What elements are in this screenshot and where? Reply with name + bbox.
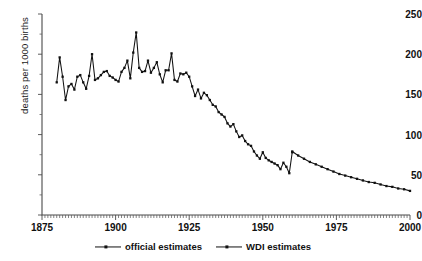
data-point-marker: [56, 81, 58, 83]
data-point-marker: [209, 99, 211, 101]
data-point-marker: [132, 51, 134, 53]
data-point-marker: [197, 88, 199, 90]
data-point-marker: [120, 71, 122, 73]
data-point-marker: [82, 81, 84, 83]
data-point-marker: [203, 92, 205, 94]
data-point-marker: [391, 186, 393, 188]
data-point-marker: [59, 56, 61, 58]
data-point-marker: [397, 187, 399, 189]
data-point-marker: [76, 76, 78, 78]
data-point-marker: [188, 76, 190, 78]
data-point-marker: [226, 122, 228, 124]
data-point-marker: [368, 181, 370, 183]
data-point-marker: [344, 174, 346, 176]
data-point-marker: [409, 190, 411, 192]
data-point-marker: [79, 74, 81, 76]
legend-entry-wdi: WDI estimates: [216, 241, 311, 252]
data-point-marker: [379, 183, 381, 185]
data-point-marker: [220, 113, 222, 115]
data-point-marker: [88, 75, 90, 77]
data-point-marker: [91, 53, 93, 55]
data-point-marker: [94, 79, 96, 81]
data-point-marker: [270, 161, 272, 163]
data-point-marker: [141, 71, 143, 73]
data-point-marker: [241, 134, 243, 136]
data-point-marker: [244, 140, 246, 142]
data-point-marker: [235, 130, 237, 132]
data-point-marker: [191, 85, 193, 87]
series-line-wdi: [292, 151, 410, 190]
data-point-marker: [179, 72, 181, 74]
data-point-marker: [356, 178, 358, 180]
data-point-marker: [279, 168, 281, 170]
data-point-marker: [150, 72, 152, 74]
data-point-marker: [285, 166, 287, 168]
data-point-marker: [123, 67, 125, 69]
data-point-marker: [282, 162, 284, 164]
data-point-marker: [291, 150, 293, 152]
legend-key-icon: [95, 243, 121, 251]
data-point-marker: [61, 76, 63, 78]
data-point-marker: [362, 179, 364, 181]
data-point-marker: [114, 79, 116, 81]
data-point-marker: [297, 154, 299, 156]
data-point-marker: [262, 151, 264, 153]
data-point-marker: [144, 70, 146, 72]
data-point-marker: [276, 164, 278, 166]
data-point-marker: [385, 185, 387, 187]
data-point-marker: [167, 69, 169, 71]
data-point-marker: [170, 52, 172, 54]
data-point-marker: [321, 166, 323, 168]
data-point-marker: [309, 161, 311, 163]
data-point-marker: [147, 59, 149, 61]
legend-key-icon: [216, 243, 242, 251]
data-point-marker: [97, 77, 99, 79]
data-point-marker: [67, 85, 69, 87]
data-point-marker: [350, 176, 352, 178]
data-point-marker: [129, 77, 131, 79]
data-point-marker: [182, 73, 184, 75]
data-point-marker: [100, 74, 102, 76]
data-point-marker: [103, 71, 105, 73]
data-point-marker: [273, 162, 275, 164]
data-point-marker: [232, 123, 234, 125]
data-point-marker: [73, 88, 75, 90]
data-point-marker: [212, 104, 214, 106]
data-point-marker: [374, 182, 376, 184]
data-point-marker: [332, 170, 334, 172]
data-point-marker: [288, 172, 290, 174]
data-point-marker: [315, 163, 317, 165]
data-point-marker: [338, 173, 340, 175]
data-point-marker: [253, 150, 255, 152]
data-point-marker: [259, 158, 261, 160]
data-point-marker: [223, 116, 225, 118]
data-point-marker: [238, 136, 240, 138]
data-point-marker: [215, 105, 217, 107]
data-point-marker: [265, 157, 267, 159]
data-point-marker: [256, 154, 258, 156]
chart-legend: official estimatesWDI estimates: [95, 241, 325, 252]
data-point-marker: [194, 95, 196, 97]
data-point-marker: [200, 97, 202, 99]
data-point-marker: [176, 80, 178, 82]
data-point-marker: [250, 145, 252, 147]
data-point-marker: [106, 70, 108, 72]
data-point-marker: [109, 75, 111, 77]
data-point-marker: [165, 69, 167, 71]
data-point-marker: [138, 67, 140, 69]
data-point-marker: [153, 67, 155, 69]
data-point-marker: [229, 125, 231, 127]
legend-entry-official: official estimates: [95, 241, 202, 252]
data-point-marker: [247, 143, 249, 145]
data-point-marker: [117, 80, 119, 82]
data-point-marker: [173, 79, 175, 81]
data-point-marker: [403, 188, 405, 190]
data-point-marker: [85, 88, 87, 90]
plot-area: [0, 0, 422, 261]
data-point-marker: [268, 159, 270, 161]
data-point-marker: [162, 81, 164, 83]
axis-lines: [42, 14, 410, 215]
legend-label: official estimates: [125, 241, 202, 252]
data-point-marker: [326, 168, 328, 170]
data-point-marker: [185, 72, 187, 74]
